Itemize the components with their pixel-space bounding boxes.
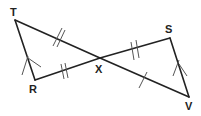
label-V: V — [185, 100, 193, 112]
tick-mark-XV — [139, 72, 147, 88]
label-R: R — [29, 83, 37, 95]
geometry-diagram: T R X S V — [0, 0, 201, 116]
segment-TX — [15, 20, 100, 58]
label-T: T — [10, 6, 17, 18]
label-X: X — [95, 63, 103, 75]
segment-SV — [170, 38, 189, 97]
segment-XS — [100, 38, 170, 58]
label-S: S — [165, 23, 172, 35]
tick-marks-XS — [131, 40, 139, 60]
segment-TR — [15, 20, 35, 80]
tick-mark-TR — [22, 56, 41, 75]
tick-marks-RX — [61, 63, 68, 79]
